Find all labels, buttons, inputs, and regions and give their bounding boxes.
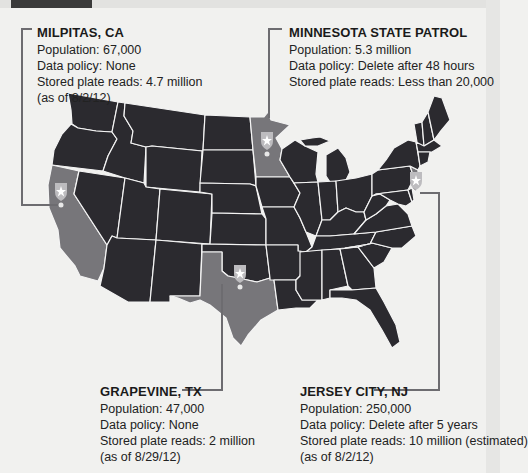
stored-reads-text: Stored plate reads: 4.7 million bbox=[37, 74, 202, 90]
state-sd bbox=[200, 150, 256, 186]
as-of-date-text: (as of 8/29/12) bbox=[100, 449, 255, 465]
state-ct bbox=[418, 152, 430, 166]
stored-reads-text: Stored plate reads: 2 million bbox=[100, 433, 255, 449]
state-co bbox=[156, 189, 212, 244]
state-az bbox=[100, 236, 156, 302]
state-nd bbox=[203, 115, 253, 150]
state-wy bbox=[146, 146, 202, 192]
state-mt bbox=[124, 103, 205, 151]
callout-title: MINNESOTA STATE PATROL bbox=[289, 25, 494, 41]
population-text: Population: 47,000 bbox=[100, 401, 255, 417]
state-nm bbox=[150, 240, 202, 302]
state-ms bbox=[296, 250, 322, 300]
callout-milpitas: MILPITAS, CA Population: 67,000 Data pol… bbox=[37, 25, 202, 106]
callout-title: MILPITAS, CA bbox=[37, 25, 202, 41]
callout-title: JERSEY CITY, NJ bbox=[300, 384, 528, 400]
population-text: Population: 5.3 million bbox=[289, 42, 494, 58]
population-text: Population: 250,000 bbox=[300, 401, 528, 417]
callout-grapevine: GRAPEVINE, TX Population: 47,000 Data po… bbox=[100, 384, 255, 465]
as-of-date-text: (as of 8/2/12) bbox=[300, 449, 528, 465]
state-mi-up bbox=[300, 137, 330, 146]
data-policy-text: Data policy: Delete after 48 hours bbox=[289, 58, 494, 74]
as-of-date-text: (as of 8/2/12) bbox=[37, 90, 202, 106]
state-ny bbox=[378, 140, 420, 170]
minnesota-leader-line bbox=[269, 29, 282, 118]
population-text: Population: 67,000 bbox=[37, 42, 202, 58]
stored-reads-text: Stored plate reads: Less than 20,000 bbox=[289, 74, 494, 90]
data-policy-text: Data policy: None bbox=[37, 58, 202, 74]
state-in bbox=[318, 181, 338, 220]
state-fl bbox=[330, 288, 400, 348]
state-ks bbox=[210, 213, 266, 245]
data-policy-text: Data policy: Delete after 5 years bbox=[300, 417, 528, 433]
stored-reads-text: Stored plate reads: 10 million (estimate… bbox=[300, 433, 528, 449]
callout-title: GRAPEVINE, TX bbox=[100, 384, 255, 400]
callout-jersey-city: JERSEY CITY, NJ Population: 250,000 Data… bbox=[300, 384, 528, 465]
data-policy-text: Data policy: None bbox=[100, 417, 255, 433]
callout-minnesota: MINNESOTA STATE PATROL Population: 5.3 m… bbox=[289, 25, 494, 90]
